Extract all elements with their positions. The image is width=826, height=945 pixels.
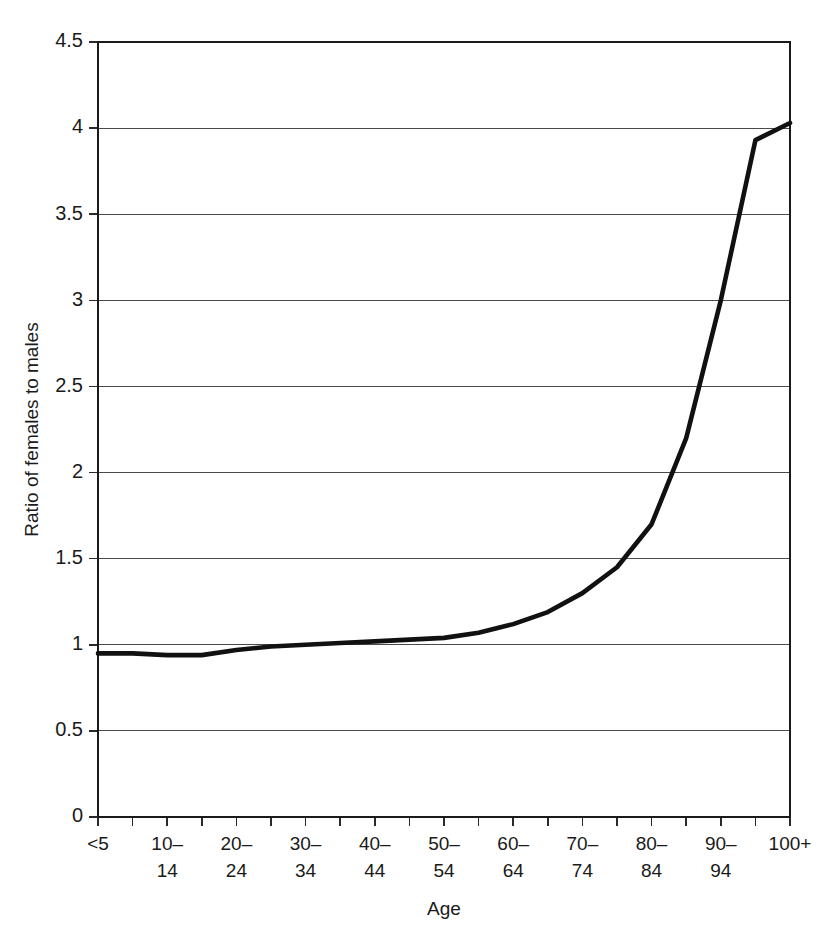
y-axis-title: Ratio of females to males xyxy=(21,322,42,536)
x-tick-label-6-line1: 60– xyxy=(497,833,529,854)
x-tick-label-9-line2: 94 xyxy=(710,860,732,881)
x-tick-label-3-line2: 34 xyxy=(295,860,317,881)
x-tick-marks-group xyxy=(98,817,790,826)
y-tick-label-1: 0.5 xyxy=(55,718,83,740)
y-tick-label-8: 4 xyxy=(72,115,83,137)
x-tick-label-9-line1: 90– xyxy=(705,833,737,854)
sex-ratio-by-age-line-chart: 00.511.522.533.544.5 <510–1420–2430–3440… xyxy=(0,0,826,945)
x-tick-label-2-line2: 24 xyxy=(226,860,248,881)
y-tick-label-7: 3.5 xyxy=(55,202,83,224)
x-axis-title: Age xyxy=(427,898,461,919)
y-tick-label-4: 2 xyxy=(72,460,83,482)
x-tick-label-6-line2: 64 xyxy=(503,860,525,881)
x-tick-label-1-line1: 10– xyxy=(151,833,183,854)
x-tick-label-1-line2: 14 xyxy=(157,860,179,881)
x-tick-label-2-line1: 20– xyxy=(221,833,253,854)
x-tick-label-4-line1: 40– xyxy=(359,833,391,854)
x-tick-label-5-line1: 50– xyxy=(428,833,460,854)
chart-page: 00.511.522.533.544.5 <510–1420–2430–3440… xyxy=(0,0,826,945)
y-tick-label-2: 1 xyxy=(72,632,83,654)
x-tick-label-3-line1: 30– xyxy=(290,833,322,854)
x-tick-label-7-line1: 70– xyxy=(567,833,599,854)
y-tick-label-6: 3 xyxy=(72,288,83,310)
y-tick-label-5: 2.5 xyxy=(55,374,83,396)
x-tick-label-8-line1: 80– xyxy=(636,833,668,854)
x-tick-label-5-line2: 54 xyxy=(433,860,455,881)
x-tick-label-8-line2: 84 xyxy=(641,860,663,881)
x-tick-label-10-line1: 100+ xyxy=(769,833,812,854)
y-tick-label-3: 1.5 xyxy=(55,546,83,568)
x-tick-label-0-line1: <5 xyxy=(87,833,109,854)
x-tick-label-7-line2: 74 xyxy=(572,860,594,881)
y-tick-label-0: 0 xyxy=(72,804,83,826)
y-tick-label-9: 4.5 xyxy=(55,29,83,51)
x-tick-label-4-line2: 44 xyxy=(364,860,386,881)
